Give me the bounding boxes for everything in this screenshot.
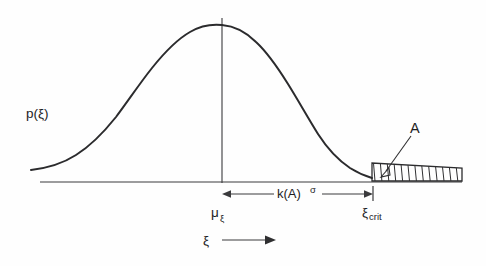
density-axis-label: p(ξ) — [26, 106, 49, 121]
dimension-label-superscript: σ — [310, 184, 316, 195]
dimension-label: k(A) — [277, 186, 301, 201]
tail-area-label: A — [410, 120, 420, 136]
critical-value-label: ξ — [362, 205, 368, 220]
figure-container: p(ξ) μ ξ ξ crit k(A) σ A ξ — [0, 0, 486, 266]
critical-value-label-subscript: crit — [369, 211, 382, 222]
x-axis-direction-label: ξ — [203, 233, 209, 248]
mean-label: μ — [211, 205, 219, 220]
mean-label-subscript: ξ — [220, 213, 225, 224]
probability-density-figure: p(ξ) μ ξ ξ crit k(A) σ A ξ — [0, 0, 486, 266]
